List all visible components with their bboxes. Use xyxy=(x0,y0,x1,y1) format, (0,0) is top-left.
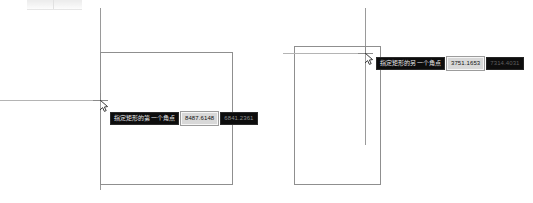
tracking-horizontal-line-right xyxy=(283,53,365,54)
dynamic-input-prompt-left: 指定矩形的第一个角点 xyxy=(110,112,179,125)
cad-canvas: 指定矩形的第一个角点 8487.6148 6841.2361 指定矩形的另一个角… xyxy=(0,0,533,203)
mouse-pointer-right xyxy=(365,53,374,65)
dynamic-input-y-field-left[interactable]: 6841.2361 xyxy=(220,112,257,125)
rectangle-shape-right[interactable] xyxy=(294,46,381,185)
dynamic-input-prompt-right: 指定矩形的另一个角点 xyxy=(376,57,445,70)
dynamic-input-right[interactable]: 指定矩形的另一个角点 3751.1653 7314.4031 xyxy=(376,57,524,70)
tracking-horizontal-line-left xyxy=(0,100,100,101)
dynamic-input-x-field-left[interactable]: 8487.6148 xyxy=(181,112,218,125)
dynamic-input-x-field-right[interactable]: 3751.1653 xyxy=(447,57,484,70)
dynamic-input-left[interactable]: 指定矩形的第一个角点 8487.6148 6841.2361 xyxy=(110,112,258,125)
mouse-pointer-left xyxy=(100,100,109,112)
cut-off-toolbar[interactable] xyxy=(27,0,82,10)
dynamic-input-y-field-right[interactable]: 7314.4031 xyxy=(486,57,523,70)
